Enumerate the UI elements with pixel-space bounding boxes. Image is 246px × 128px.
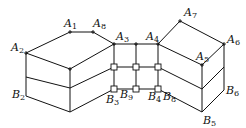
left-block (26, 32, 114, 112)
label-b3: B3 (105, 93, 119, 107)
diagram-canvas: A1 A8 A2 A3 A4 A7 A5 A6 B2 B3 B9 B4 B8 B… (0, 0, 246, 128)
square-node (111, 64, 117, 70)
label-a8: A8 (92, 17, 106, 31)
label-b6: B6 (225, 84, 239, 98)
left-top-front-edge (26, 44, 114, 69)
label-a5: A5 (195, 50, 209, 64)
label-a4: A4 (145, 30, 159, 44)
label-b9: B9 (119, 88, 133, 102)
label-a6: A6 (226, 33, 240, 47)
label-a1: A1 (63, 17, 77, 31)
vertex-a8-marker (91, 30, 95, 34)
vertex-mid-marker (134, 42, 138, 46)
label-a3: A3 (115, 30, 129, 44)
label-b5: B5 (202, 114, 216, 128)
label-a7: A7 (183, 6, 197, 20)
right-top-front-edge (158, 44, 224, 65)
label-b8: B8 (162, 90, 176, 104)
label-a2: A2 (10, 41, 24, 55)
right-middle-ring (158, 67, 224, 89)
label-b2: B2 (11, 88, 25, 102)
right-top-back-edge (158, 21, 224, 44)
square-node (133, 64, 139, 70)
vertex-front-marker (68, 67, 72, 71)
square-node (155, 64, 161, 70)
vertex-a2-marker (24, 51, 28, 55)
square-node-b3 (111, 86, 117, 92)
square-node-b9 (133, 86, 139, 92)
left-top-back-edge (26, 32, 114, 53)
